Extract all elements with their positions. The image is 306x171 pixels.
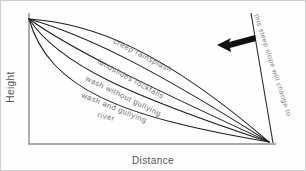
steep-slope-annotation: this steep slope will change to <box>252 13 293 117</box>
y-axis-label: Height <box>5 71 16 102</box>
axis-lines <box>29 13 276 144</box>
figure-container: creep rainsplash landslides rockfalls wa… <box>0 0 306 171</box>
hillslope-diagram: creep rainsplash landslides rockfalls wa… <box>1 1 306 171</box>
profile-curve-wash-and-gullying <box>29 19 269 142</box>
curve-label-river: river <box>97 110 116 123</box>
profile-curve-wash-without-gullying <box>29 19 269 142</box>
profile-curve-river <box>29 19 269 142</box>
profile-curve-creep-rainsplash <box>29 19 269 142</box>
direction-arrow-icon <box>217 35 256 52</box>
x-axis-label: Distance <box>132 155 174 166</box>
profile-curve-landslides-rockfalls <box>29 19 269 142</box>
